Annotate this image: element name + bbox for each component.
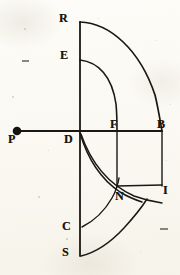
- label-R: R: [59, 12, 68, 24]
- label-I: I: [163, 184, 168, 196]
- arc-S-outer: [81, 199, 147, 256]
- geometric-figure: [0, 0, 180, 275]
- label-S: S: [62, 246, 69, 258]
- label-B: B: [157, 118, 165, 130]
- arc-R-B: [80, 22, 162, 131]
- figure-page: R E P D F B I N C S: [0, 0, 180, 275]
- label-E: E: [60, 49, 68, 61]
- arc-C-F: [82, 178, 119, 227]
- label-D: D: [64, 133, 73, 145]
- line-N-I: [117, 185, 162, 186]
- arc-D-N: [80, 133, 142, 202]
- label-F: F: [110, 118, 117, 130]
- label-C: C: [62, 220, 71, 232]
- label-N: N: [115, 190, 124, 202]
- label-P: P: [8, 133, 15, 145]
